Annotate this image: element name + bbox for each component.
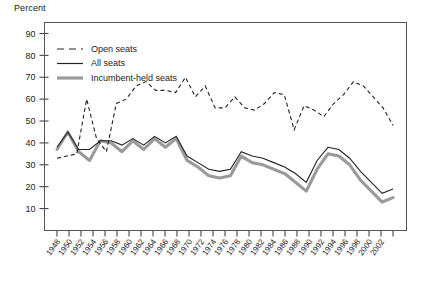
y-tick-label: 60	[25, 94, 35, 104]
y-tick-label: 50	[25, 116, 35, 126]
y-tick-label: 90	[25, 29, 35, 39]
y-tick-label: 80	[25, 51, 35, 61]
y-tick-label: 20	[25, 182, 35, 192]
legend-label-all-seats: All seats	[91, 58, 126, 68]
x-axis-ticks	[57, 231, 393, 237]
data-series-group	[57, 77, 393, 202]
y-tick-label: 30	[25, 160, 35, 170]
y-axis-ticks: 102030405060708090	[25, 29, 48, 214]
y-tick-label: 70	[25, 72, 35, 82]
legend-label-incumbent-held-seats: Incumbent-held seats	[91, 73, 178, 83]
x-axis-labels: 1948195019521954195619581960196219641966…	[45, 237, 387, 257]
chart-canvas: 102030405060708090 Open seatsAll seatsIn…	[0, 0, 428, 286]
series-line-all-seats	[57, 132, 393, 193]
series-line-incumbent-held-seats	[57, 132, 393, 202]
y-tick-label: 10	[25, 204, 35, 214]
legend-label-open-seats: Open seats	[91, 44, 138, 54]
chart-legend: Open seatsAll seatsIncumbent-held seats	[57, 44, 178, 83]
series-line-open-seats	[57, 77, 393, 158]
percent-line-chart: Percent 102030405060708090 Open seatsAll…	[0, 0, 428, 286]
y-tick-label: 40	[25, 138, 35, 148]
x-tick-label: 2002	[369, 237, 387, 257]
